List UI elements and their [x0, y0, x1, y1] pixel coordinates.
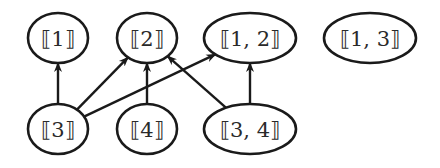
node-label: ⟦4⟧	[130, 118, 163, 142]
node-label: ⟦2⟧	[130, 27, 163, 51]
graph-node-n13: ⟦1, 3⟧	[324, 13, 416, 63]
lattice-diagram: ⟦1⟧⟦2⟧⟦1, 2⟧⟦1, 3⟧⟦3⟧⟦4⟧⟦3, 4⟧	[0, 0, 440, 168]
edge-arrow-n3-to-n2	[77, 57, 128, 109]
nodes-layer: ⟦1⟧⟦2⟧⟦1, 2⟧⟦1, 3⟧⟦3⟧⟦4⟧⟦3, 4⟧	[28, 13, 416, 154]
graph-node-n12: ⟦1, 2⟧	[204, 13, 296, 63]
graph-node-n4: ⟦4⟧	[117, 104, 177, 154]
node-label: ⟦1, 3⟧	[340, 27, 400, 51]
graph-node-n34: ⟦3, 4⟧	[204, 104, 296, 154]
graph-node-n1: ⟦1⟧	[28, 13, 88, 63]
node-label: ⟦1⟧	[41, 27, 74, 51]
node-label: ⟦1, 2⟧	[220, 27, 280, 51]
node-label: ⟦3, 4⟧	[220, 118, 280, 142]
graph-node-n2: ⟦2⟧	[117, 13, 177, 63]
graph-node-n3: ⟦3⟧	[28, 104, 88, 154]
node-label: ⟦3⟧	[41, 118, 74, 142]
